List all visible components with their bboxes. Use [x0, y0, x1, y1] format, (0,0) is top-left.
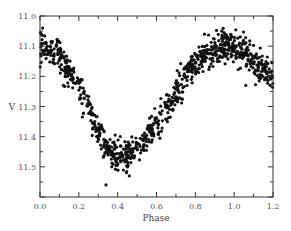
x-tick-label: 0.4	[111, 202, 124, 211]
light-curve-chart: 0.00.20.40.60.81.01.2 11.011.111.211.311…	[0, 0, 291, 231]
x-tick-label: 1.0	[228, 202, 241, 211]
y-tick-label: 11.3	[18, 103, 36, 112]
y-tick-label: 11.0	[18, 12, 36, 21]
y-tick-label: 11.5	[18, 163, 36, 172]
x-tick-label: 0.2	[72, 202, 85, 211]
x-tick-label: 0.8	[189, 202, 202, 211]
x-axis-title: Phase	[142, 213, 169, 223]
x-tick-label: 0.0	[34, 202, 47, 211]
y-tick-label: 11.1	[18, 42, 36, 51]
data-points	[39, 27, 275, 187]
x-tick-label: 0.6	[150, 202, 163, 211]
y-tick-label: 11.4	[18, 133, 36, 142]
y-axis-title: V	[8, 102, 16, 112]
y-tick-label: 11.2	[18, 72, 36, 81]
x-tick-label: 1.2	[267, 202, 280, 211]
